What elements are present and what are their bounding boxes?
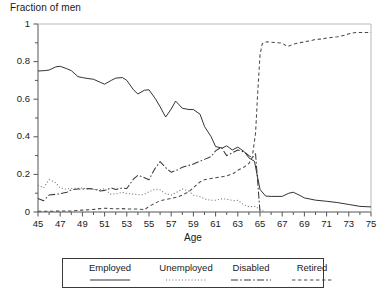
legend-item-retired[interactable]: Retired — [281, 262, 343, 283]
series-line-retired — [38, 32, 371, 211]
y-tick-label: 0.6 — [0, 93, 30, 104]
series-lines — [38, 32, 371, 212]
legend: EmployedUnemployedDisabledRetired — [62, 258, 324, 288]
y-tick-label: 1 — [0, 18, 30, 29]
y-tick-label: 0.4 — [0, 130, 30, 141]
legend-label: Unemployed — [146, 262, 226, 274]
legend-swatch-solid — [89, 277, 131, 283]
series-line-employed — [38, 66, 371, 207]
legend-swatch-dotted — [165, 277, 207, 283]
legend-item-disabled[interactable]: Disabled — [221, 262, 281, 283]
legend-item-employed[interactable]: Employed — [76, 262, 144, 283]
y-tick-label: 0.8 — [0, 55, 30, 66]
line-chart — [0, 0, 386, 298]
series-line-unemployed — [38, 180, 264, 212]
y-tick-label: 0 — [0, 206, 30, 217]
x-tick-label: 75 — [356, 218, 386, 229]
legend-label: Disabled — [221, 262, 281, 274]
legend-swatch-dashed — [291, 277, 333, 283]
series-line-disabled — [38, 147, 260, 212]
legend-label: Employed — [76, 262, 144, 274]
y-tick-label: 0.2 — [0, 168, 30, 179]
legend-swatch-dashdot — [230, 277, 272, 283]
legend-item-unemployed[interactable]: Unemployed — [146, 262, 226, 283]
legend-label: Retired — [281, 262, 343, 274]
